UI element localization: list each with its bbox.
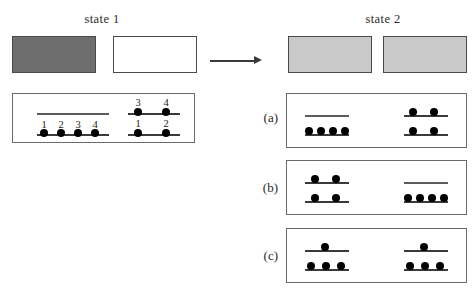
case-b-panel (286, 160, 467, 215)
state-1-right-lower-particle (162, 129, 170, 137)
state-2-right-block (383, 36, 467, 73)
case-b-right-lower-particle (428, 194, 436, 202)
figure-canvas: state 1 1 2 3 4 3 4 1 2 state 2 (a) (0, 0, 476, 293)
case-a-left-lower-particle (305, 127, 313, 135)
state-1-right-particle-label-2: 2 (161, 119, 171, 130)
case-a-left-upper-level (305, 115, 349, 117)
case-a-label: (a) (238, 110, 278, 126)
case-c-left-lower-particle (322, 262, 330, 270)
case-c-right-lower-particle (421, 262, 429, 270)
state-1-title: state 1 (52, 12, 152, 27)
case-b-left-lower-level (305, 201, 349, 203)
case-c-label: (c) (238, 248, 278, 264)
state-1-cold-block (113, 36, 197, 73)
state-2-title: state 2 (333, 12, 433, 27)
case-c-panel (286, 228, 467, 283)
case-a-left-lower-particle (317, 127, 325, 135)
case-a-right-upper-particle (430, 108, 438, 116)
state-1-right-upper-particle (162, 108, 170, 116)
case-a-right-upper-particle (409, 108, 417, 116)
state-1-level-panel: 1 2 3 4 3 4 1 2 (12, 93, 195, 143)
state-2-left-block (288, 36, 372, 73)
case-b-right-lower-particle (404, 194, 412, 202)
state-1-left-lower-particle (74, 129, 82, 137)
case-a-left-lower-particle (329, 127, 337, 135)
case-b-left-lower-particle (311, 194, 319, 202)
case-b-left-lower-particle (332, 194, 340, 202)
state-1-left-lower-particle (40, 129, 48, 137)
case-b-right-upper-level (404, 182, 448, 184)
state-1-left-lower-particle (57, 129, 65, 137)
state-1-right-particle-label-4: 4 (161, 98, 171, 109)
case-b-label: (b) (238, 180, 278, 196)
case-b-left-upper-particle (311, 175, 319, 183)
transition-arrow-head (254, 56, 262, 64)
case-b-right-lower-particle (416, 194, 424, 202)
case-c-left-lower-particle (307, 262, 315, 270)
case-c-right-upper-particle (420, 243, 428, 251)
case-b-left-upper-particle (332, 175, 340, 183)
transition-arrow-shaft (210, 60, 256, 62)
case-a-panel (286, 93, 467, 148)
state-1-right-particle-label-1: 1 (133, 119, 143, 130)
case-a-right-lower-particle (409, 127, 417, 135)
case-c-right-lower-particle (406, 262, 414, 270)
case-a-left-lower-particle (341, 127, 349, 135)
case-c-left-lower-particle (337, 262, 345, 270)
case-b-left-upper-level (305, 182, 349, 184)
case-b-right-lower-particle (440, 194, 448, 202)
state-1-right-particle-label-3: 3 (133, 98, 143, 109)
case-c-right-lower-particle (436, 262, 444, 270)
state-1-right-lower-particle (134, 129, 142, 137)
state-1-hot-block (12, 36, 96, 73)
case-a-right-lower-particle (430, 127, 438, 135)
state-1-left-upper-level (37, 113, 109, 115)
state-1-left-lower-particle (91, 129, 99, 137)
case-c-left-upper-particle (321, 243, 329, 251)
state-1-right-upper-particle (134, 108, 142, 116)
